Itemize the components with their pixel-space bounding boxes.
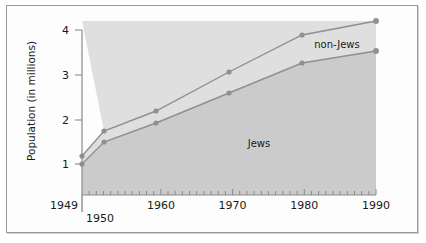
x-tick-label-1980: 1980 xyxy=(290,199,318,212)
data-point xyxy=(299,60,304,65)
y-tick-label: 1 xyxy=(62,158,69,171)
data-point xyxy=(373,48,379,54)
data-point xyxy=(226,90,231,95)
data-point xyxy=(101,128,106,133)
y-axis-title: Population (in millions) xyxy=(25,41,37,161)
series-label-jews: Jews xyxy=(247,138,271,149)
data-point xyxy=(299,32,304,37)
x-tick-label-1960: 1960 xyxy=(147,199,175,212)
data-point xyxy=(101,139,106,144)
x-tick-label-1950: 1950 xyxy=(86,212,114,225)
y-tick-label: 3 xyxy=(62,69,69,82)
chart-screenshot: 4 3 2 1 xyxy=(0,0,426,243)
y-axis-tick-labels: 4 3 2 1 xyxy=(62,24,69,171)
x-tick-label-1970: 1970 xyxy=(219,199,247,212)
x-tick-label-1990: 1990 xyxy=(362,199,390,212)
x-origin-label-1949: 1949 xyxy=(50,199,78,212)
y-tick-label: 4 xyxy=(62,24,69,37)
figure-frame: 4 3 2 1 xyxy=(6,5,418,233)
y-tick-label: 2 xyxy=(62,114,69,127)
data-point xyxy=(373,18,379,24)
series-label-non-jews: non-Jews xyxy=(314,39,359,50)
population-area-chart: 4 3 2 1 xyxy=(7,6,417,232)
data-point xyxy=(226,69,231,74)
x-axis-tick-labels: 1949 1950 1960 1970 1980 1990 xyxy=(50,199,390,225)
y-axis-ticks xyxy=(75,30,82,164)
data-point xyxy=(153,120,158,125)
data-point xyxy=(153,108,158,113)
